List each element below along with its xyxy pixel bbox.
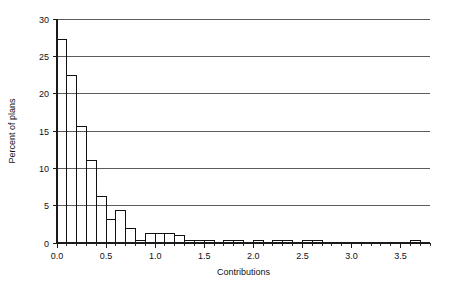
y-tick-label: 0 <box>44 239 49 249</box>
x-tick-label: 2.5 <box>296 251 309 261</box>
y-tick-label: 20 <box>39 89 49 99</box>
x-tick-label: 1.0 <box>149 251 162 261</box>
chart-background <box>0 0 450 284</box>
y-axis-title: Percent of plans <box>7 98 17 164</box>
x-tick-label: 0.0 <box>51 251 64 261</box>
y-tick-label: 15 <box>39 127 49 137</box>
y-tick-label: 5 <box>44 201 49 211</box>
x-tick-label: 1.5 <box>198 251 211 261</box>
x-tick-label: 3.0 <box>345 251 358 261</box>
y-tick-label: 25 <box>39 52 49 62</box>
x-tick-label: 3.5 <box>394 251 407 261</box>
x-tick-label: 2.0 <box>247 251 260 261</box>
histogram-chart: 0.00.51.01.52.02.53.03.5 051015202530 Co… <box>0 0 450 284</box>
y-tick-label: 10 <box>39 164 49 174</box>
y-tick-label: 30 <box>39 15 49 25</box>
chart-canvas: 0.00.51.01.52.02.53.03.5 051015202530 Co… <box>0 0 450 284</box>
x-axis-title: Contributions <box>217 267 271 277</box>
x-tick-label: 0.5 <box>100 251 113 261</box>
